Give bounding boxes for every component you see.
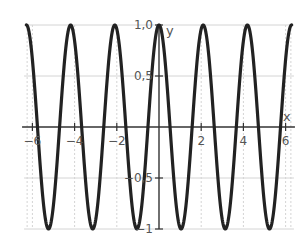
x-tick-label: 4 — [240, 134, 248, 148]
x-tick-label: −6 — [24, 134, 42, 148]
y-tick-label: −1 — [135, 222, 153, 236]
x-axis-label: x — [283, 109, 291, 124]
x-tick-label: −4 — [66, 134, 84, 148]
x-tick-label: 2 — [197, 134, 205, 148]
x-tick-label: −2 — [108, 134, 126, 148]
y-tick-label: 1,0 — [134, 18, 153, 32]
y-tick-label: −0,5 — [124, 171, 153, 185]
y-axis-label: y — [166, 23, 174, 38]
cosine-plot: −6−4−22461,00,5−0,5−1 x y — [0, 0, 305, 244]
y-tick-label: 0,5 — [134, 69, 153, 83]
x-tick-label: 6 — [282, 134, 290, 148]
